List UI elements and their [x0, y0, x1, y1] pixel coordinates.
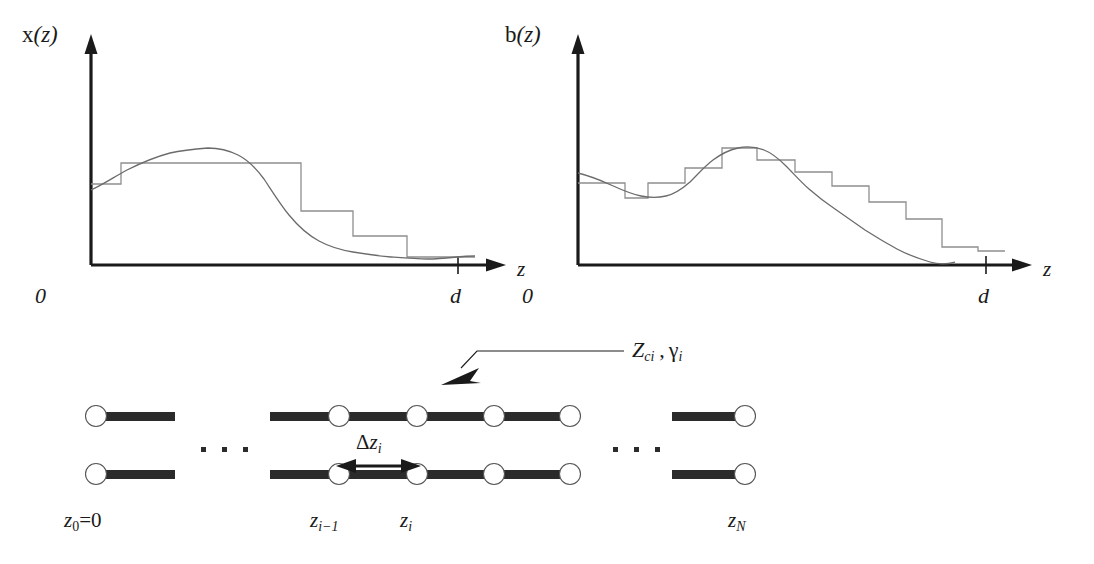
- left-y-axis-label: x(z): [22, 22, 58, 48]
- zi-base: z: [400, 508, 408, 532]
- ellipsis-right: [613, 447, 660, 452]
- zim1-sub: i−1: [318, 519, 338, 534]
- left-y-axis-label-arg: (z): [34, 22, 58, 47]
- right-y-axis-arrowhead: [572, 34, 585, 54]
- callout-Z: Z: [632, 337, 644, 362]
- node-label-zi-minus-1: zi−1: [310, 508, 339, 535]
- callout-arrowhead: [441, 368, 481, 385]
- right-y-axis-label-arg: (z): [517, 22, 541, 47]
- right-panel-plot: [578, 147, 1005, 264]
- zi-sub: i: [408, 519, 412, 534]
- right-origin-label: 0: [522, 283, 533, 309]
- callout-leader-line: [461, 351, 624, 368]
- top-node-zi-plus-2: [560, 406, 581, 427]
- top-segment-first: [100, 412, 175, 421]
- left-d-label: d: [450, 283, 461, 309]
- bottom-node-zi-plus-2: [560, 464, 581, 485]
- top-node-zi-plus-1: [484, 406, 505, 427]
- callout-label-zci-gamma: Zci,γi: [632, 337, 682, 365]
- left-x-axis-label: z: [517, 257, 525, 282]
- z0-base: z: [64, 508, 72, 532]
- right-x-axis-label: z: [1043, 257, 1051, 282]
- top-node-z0: [86, 406, 107, 427]
- delta-z-sub: i: [378, 441, 382, 456]
- bottom-node-z0: [86, 464, 107, 485]
- figure-canvas: [0, 0, 1094, 564]
- right-staircase: [578, 148, 1005, 251]
- node-label-zN: zN: [728, 508, 746, 535]
- zim1-base: z: [310, 508, 318, 532]
- left-panel-plot: [91, 148, 475, 259]
- left-staircase: [91, 163, 475, 257]
- top-node-zN: [735, 406, 756, 427]
- right-y-axis-label-fn: b: [505, 22, 517, 47]
- top-segment-last: [672, 412, 740, 421]
- left-origin-label: 0: [35, 283, 46, 309]
- callout-comma: ,: [654, 337, 669, 362]
- right-smooth-curve: [578, 147, 955, 264]
- right-panel-axes: [572, 34, 1033, 274]
- delta-z-var: z: [370, 430, 378, 454]
- node-label-z0: z0=0: [64, 508, 102, 535]
- left-y-axis-arrowhead: [85, 34, 98, 54]
- bottom-segment-last: [672, 470, 740, 479]
- z0-suffix: =0: [79, 508, 101, 532]
- bottom-node-zi-plus-1: [484, 464, 505, 485]
- bottom-segment-first: [100, 470, 175, 479]
- top-node-zi: [407, 406, 428, 427]
- transmission-line-model: [86, 351, 756, 485]
- top-segment-i-plus-2: [497, 412, 565, 421]
- node-label-zi: zi: [400, 508, 412, 535]
- top-node-zi-minus-1: [329, 406, 350, 427]
- top-segment-i: [345, 412, 413, 421]
- bottom-conductor: [86, 464, 756, 485]
- left-y-axis-label-fn: x: [22, 22, 34, 47]
- ellipsis-left: [201, 447, 248, 452]
- delta-z-label: Δzi: [356, 430, 382, 457]
- bottom-segment-i-minus-1: [270, 470, 338, 479]
- left-smooth-curve: [91, 148, 475, 259]
- zN-sub: N: [736, 519, 745, 534]
- bottom-segment-i-plus-2: [497, 470, 565, 479]
- top-segment-i-minus-1: [270, 412, 338, 421]
- callout-gamma: γ: [669, 337, 679, 362]
- right-d-label: d: [978, 283, 989, 309]
- callout-ci: ci: [644, 349, 654, 364]
- bottom-node-zN: [735, 464, 756, 485]
- left-x-axis-arrowhead: [486, 259, 506, 272]
- right-x-axis-arrowhead: [1012, 259, 1032, 272]
- left-panel-axes: [85, 34, 507, 274]
- bottom-segment-i-plus-1: [420, 470, 488, 479]
- top-conductor: [86, 406, 756, 427]
- figure-root: x(z) z 0 d b(z) z 0 d Zci,γi Δzi z0=0 zi…: [0, 0, 1094, 564]
- top-segment-i-plus-1: [420, 412, 488, 421]
- delta-symbol: Δ: [356, 430, 370, 454]
- callout-i: i: [679, 349, 683, 364]
- zN-base: z: [728, 508, 736, 532]
- right-y-axis-label: b(z): [505, 22, 541, 48]
